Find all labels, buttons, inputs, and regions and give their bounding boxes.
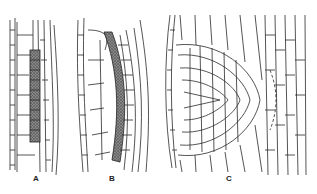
panel-c-drawing	[166, 15, 306, 175]
panel-label-b: B	[109, 174, 115, 183]
panel-label-c: C	[226, 174, 232, 183]
panel-label-a: A	[33, 174, 39, 183]
panel-b-drawing	[77, 18, 148, 172]
figure-drawing	[0, 0, 317, 194]
panel-a-drawing	[10, 18, 58, 175]
